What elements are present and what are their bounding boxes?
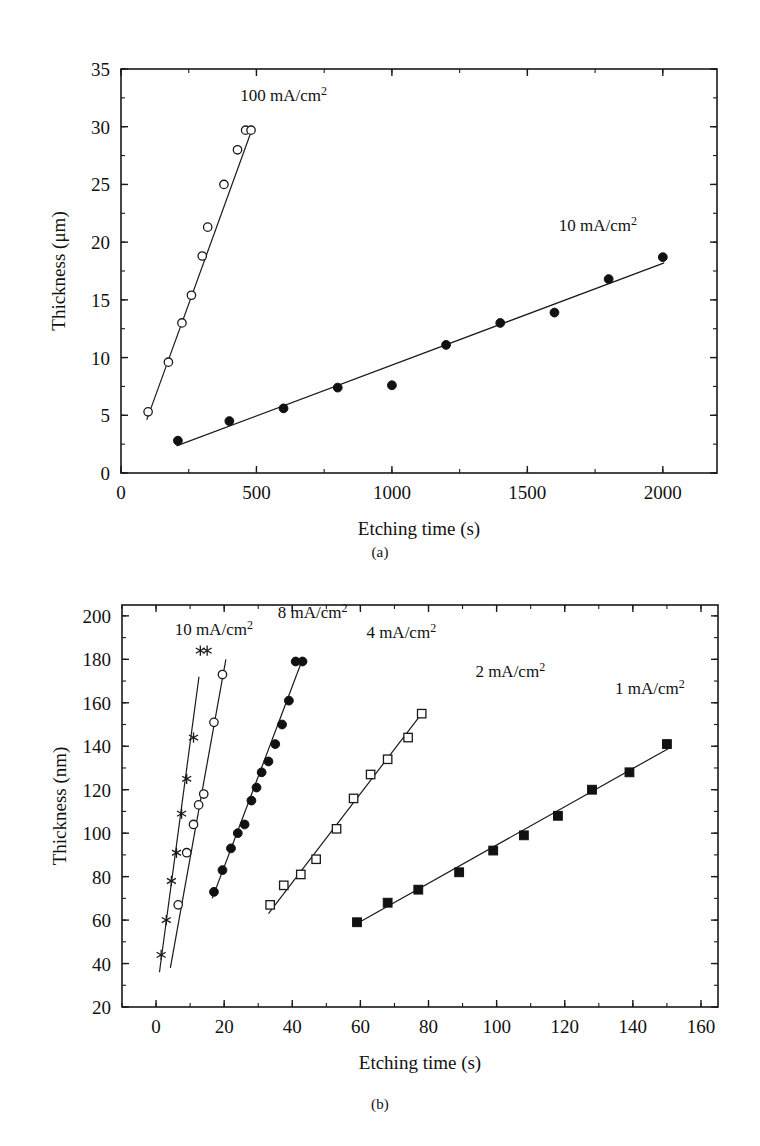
x-tick-label: 140 (619, 1016, 648, 1037)
y-tick-label: 0 (101, 463, 111, 484)
data-point (333, 383, 342, 392)
fit-line (147, 127, 253, 420)
data-point (144, 408, 152, 416)
data-point (312, 855, 320, 863)
axis-ticks (122, 605, 718, 1007)
fit-line (268, 711, 423, 913)
series-label: 100 mA/cm2 (240, 84, 327, 105)
series-label: 10 mA/cm2 (175, 618, 253, 639)
x-tick-label: 1000 (373, 482, 411, 503)
y-tick-label: 140 (83, 736, 112, 757)
series-label: 8 mA/cm2 (278, 601, 348, 622)
data-point (588, 785, 597, 794)
x-tick-label: 40 (283, 1016, 302, 1037)
y-tick-label: 60 (92, 910, 111, 931)
x-axis-title: Etching time (s) (359, 1052, 481, 1074)
y-axis-title: Thickness (μm) (48, 211, 70, 330)
fit-line (212, 659, 302, 898)
x-tick-label: 0 (151, 1016, 161, 1037)
data-point (388, 381, 397, 390)
data-point (196, 645, 205, 655)
data-point (264, 757, 273, 766)
data-point (187, 291, 195, 299)
y-tick-label: 25 (91, 174, 110, 195)
y-tick-label: 5 (101, 405, 111, 426)
data-point (174, 901, 182, 909)
x-tick-label: 500 (242, 482, 271, 503)
data-point (233, 146, 241, 154)
data-point (496, 319, 505, 328)
data-point (167, 876, 176, 886)
y-tick-label: 120 (83, 780, 112, 801)
y-tick-label: 20 (92, 997, 111, 1018)
data-series (144, 126, 255, 420)
y-tick-label: 20 (91, 232, 110, 253)
data-point (172, 848, 181, 858)
data-point (604, 275, 613, 284)
data-point (271, 740, 280, 749)
data-point (284, 696, 293, 705)
x-tick-label: 0 (116, 482, 126, 503)
data-point (298, 657, 307, 666)
y-tick-label: 160 (83, 693, 112, 714)
data-point (278, 720, 287, 729)
data-point (233, 829, 242, 838)
data-point (519, 831, 528, 840)
data-point (383, 755, 391, 763)
y-tick-label: 10 (91, 348, 110, 369)
data-point (257, 768, 266, 777)
y-tick-label: 30 (91, 117, 110, 138)
x-tick-label: 60 (351, 1016, 370, 1037)
data-point (663, 740, 672, 749)
data-point (177, 808, 186, 818)
y-tick-label: 80 (92, 867, 111, 888)
panel-a-caption: (a) (0, 544, 760, 561)
data-point (297, 870, 305, 878)
data-point (194, 801, 202, 809)
data-point (266, 901, 274, 909)
data-series (210, 657, 307, 898)
data-point (404, 733, 412, 741)
y-tick-label: 35 (91, 59, 110, 80)
data-series (170, 659, 226, 968)
series-label: 1 mA/cm2 (615, 677, 685, 698)
panel-b-caption: (b) (0, 1096, 760, 1113)
series-label: 2 mA/cm2 (475, 660, 545, 681)
data-point (383, 898, 392, 907)
data-point (418, 709, 426, 717)
data-point (353, 918, 362, 927)
chart-a-canvas: 050010001500200005101520253035100 mA/cm2… (0, 0, 760, 580)
data-point (550, 308, 559, 317)
plot-frame (122, 605, 718, 1007)
data-point (183, 849, 191, 857)
fit-line (170, 659, 226, 968)
y-tick-label: 15 (91, 290, 110, 311)
data-point (227, 844, 236, 853)
data-point (164, 358, 172, 366)
data-point (173, 436, 182, 445)
data-point (198, 252, 206, 260)
y-tick-label: 100 (83, 823, 112, 844)
x-tick-label: 100 (482, 1016, 511, 1037)
x-tick-label: 2000 (644, 482, 682, 503)
data-point (203, 645, 212, 655)
series-label: 4 mA/cm2 (366, 621, 436, 642)
data-point (366, 770, 374, 778)
data-point (658, 253, 667, 262)
data-point (252, 783, 261, 792)
x-tick-label: 1500 (508, 482, 546, 503)
data-series (157, 645, 212, 972)
data-point (203, 223, 211, 231)
data-point (414, 885, 423, 894)
data-point (178, 319, 186, 327)
data-series (173, 253, 667, 446)
data-point (162, 915, 171, 925)
data-point (240, 820, 249, 829)
y-tick-label: 40 (92, 954, 111, 975)
data-point (625, 768, 634, 777)
chart-panel-b: 0204060801001201401602040608010012014016… (0, 566, 760, 1146)
data-point (489, 846, 498, 855)
data-point (349, 794, 357, 802)
data-point (218, 866, 227, 875)
data-point (200, 790, 208, 798)
